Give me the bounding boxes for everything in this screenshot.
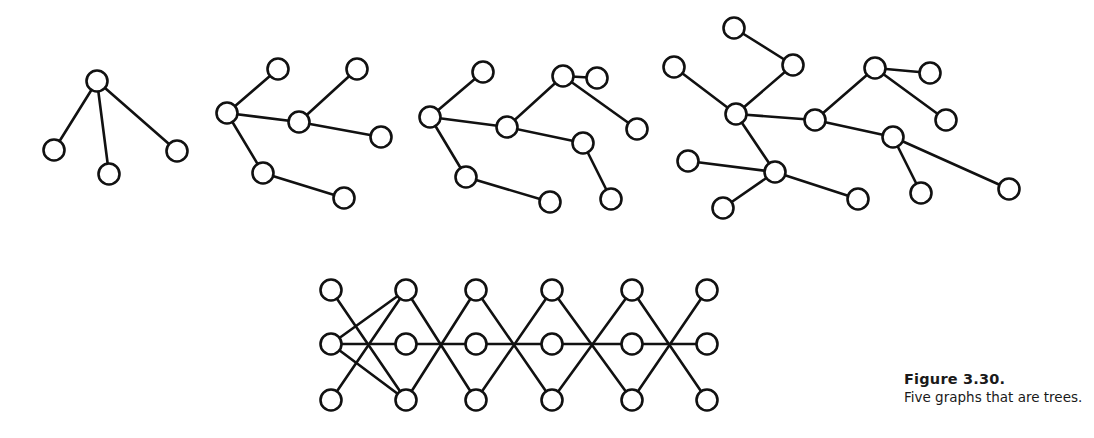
graph-node — [627, 119, 648, 140]
graph-node — [321, 390, 342, 411]
graph-node — [420, 107, 441, 128]
graphs-layer — [44, 18, 1020, 411]
graph-node — [724, 18, 745, 39]
graph-node — [726, 104, 747, 125]
graph-node — [217, 103, 238, 124]
graph-node — [678, 151, 699, 172]
graph-node — [783, 55, 804, 76]
graph-edge — [299, 122, 381, 137]
caption-title: Figure 3.30. — [904, 370, 1082, 388]
graph-node — [87, 71, 108, 92]
tree-1 — [44, 71, 188, 185]
graph-node — [347, 59, 368, 80]
graph-node — [321, 334, 342, 355]
graph-edge — [736, 114, 815, 120]
graph-edge — [97, 81, 109, 174]
graph-node — [371, 127, 392, 148]
graph-node — [268, 59, 289, 80]
graph-node — [697, 334, 718, 355]
graph-node — [697, 390, 718, 411]
graph-edge — [466, 177, 550, 202]
graph-edge — [688, 161, 775, 172]
graph-node — [542, 280, 563, 301]
graph-node — [396, 334, 417, 355]
graph-node — [497, 117, 518, 138]
graph-node — [622, 280, 643, 301]
graph-node — [466, 280, 487, 301]
graph-node — [805, 110, 826, 131]
graph-node — [848, 189, 869, 210]
graph-node — [253, 163, 274, 184]
graph-node — [573, 133, 594, 154]
graph-node — [473, 62, 494, 83]
graph-edge — [815, 120, 893, 137]
graph-node — [466, 390, 487, 411]
graph-node — [883, 127, 904, 148]
graph-node — [697, 280, 718, 301]
graph-node — [936, 110, 957, 131]
graph-node — [865, 58, 886, 79]
graph-node — [167, 141, 188, 162]
graph-node — [321, 280, 342, 301]
graph-node — [542, 390, 563, 411]
figure-caption: Figure 3.30. Five graphs that are trees. — [904, 370, 1082, 406]
graph-edge — [97, 81, 177, 151]
graph-edge — [775, 172, 858, 199]
graph-node — [540, 192, 561, 213]
graph-node — [911, 183, 932, 204]
graph-node — [765, 162, 786, 183]
graph-node — [44, 140, 65, 161]
tree-5 — [321, 280, 718, 411]
tree-3 — [420, 62, 648, 213]
graph-node — [542, 334, 563, 355]
graph-edge — [331, 344, 406, 400]
graph-edge — [815, 68, 875, 120]
graph-edge — [263, 173, 344, 198]
caption-text: Five graphs that are trees. — [904, 388, 1082, 406]
graph-node — [99, 164, 120, 185]
graph-node — [553, 66, 574, 87]
graph-edge — [893, 137, 1009, 189]
graph-node — [456, 167, 477, 188]
graph-node — [601, 189, 622, 210]
graph-node — [587, 68, 608, 89]
graph-node — [664, 57, 685, 78]
graph-node — [289, 112, 310, 133]
tree-4 — [664, 18, 1020, 219]
graph-node — [466, 334, 487, 355]
graph-node — [396, 390, 417, 411]
graph-node — [920, 63, 941, 84]
graph-edge — [54, 81, 97, 150]
graph-node — [622, 334, 643, 355]
tree-2 — [217, 59, 392, 209]
graph-node — [713, 198, 734, 219]
graph-node — [334, 188, 355, 209]
graph-node — [396, 280, 417, 301]
graph-node — [622, 390, 643, 411]
graph-edge — [331, 290, 406, 344]
graph-node — [999, 179, 1020, 200]
